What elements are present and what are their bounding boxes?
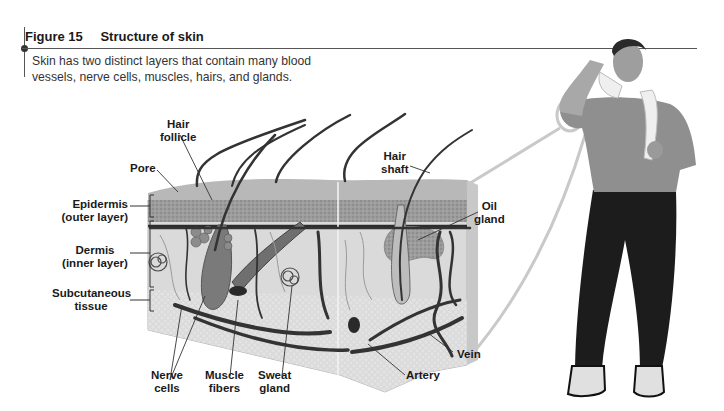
label-hair-follicle: Hair follicle	[160, 118, 196, 144]
label-line: cells	[151, 382, 183, 395]
label-line: Nerve	[151, 369, 183, 382]
athlete-figure	[559, 39, 696, 397]
vessel-cross-section	[348, 317, 360, 333]
left-shoe	[568, 366, 605, 396]
label-epidermis: Epidermis (outer layer)	[54, 198, 128, 224]
label-nerve-cells: Nerve cells	[151, 369, 183, 395]
label-vein: Vein	[457, 348, 481, 361]
label-line: fibers	[205, 382, 244, 395]
label-line: Sweat	[258, 369, 291, 382]
label-subcutaneous-tissue: Subcutaneous tissue	[52, 287, 130, 313]
label-hair-shaft: Hair shaft	[381, 150, 408, 176]
pants	[575, 190, 676, 368]
vessel-cross-section	[229, 286, 247, 296]
label-artery: Artery	[406, 369, 440, 382]
hand	[647, 141, 663, 159]
label-sweat-gland: Sweat gland	[258, 369, 291, 395]
label-line: gland	[474, 213, 505, 226]
label-line: follicle	[160, 131, 196, 144]
label-line: Hair	[160, 118, 196, 131]
label-line: Subcutaneous	[52, 287, 130, 300]
label-line: Oil	[474, 200, 505, 213]
label-line: shaft	[381, 163, 408, 176]
label-line: Hair	[381, 150, 408, 163]
label-line: gland	[258, 382, 291, 395]
label-line: Dermis	[62, 244, 128, 257]
right-shoe	[634, 366, 664, 397]
label-line: Epidermis	[54, 198, 128, 211]
label-dermis: Dermis (inner layer)	[62, 244, 128, 270]
skin-block	[148, 179, 478, 392]
label-line: tissue	[52, 300, 130, 313]
label-oil-gland: Oil gland	[474, 200, 505, 226]
label-muscle-fibers: Muscle fibers	[205, 369, 244, 395]
label-pore: Pore	[130, 162, 156, 175]
label-line: (outer layer)	[54, 211, 128, 224]
layer-brackets	[130, 195, 154, 311]
label-line: Muscle	[205, 369, 244, 382]
magnification-connector	[467, 99, 585, 360]
label-line: (inner layer)	[62, 257, 128, 270]
